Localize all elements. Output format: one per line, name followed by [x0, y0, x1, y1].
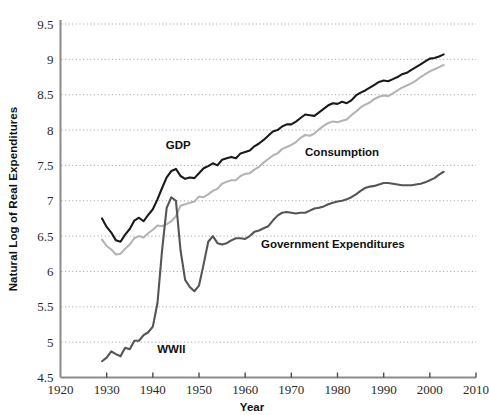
x-tick-label: 1940	[140, 382, 166, 397]
x-tick-label: 1950	[186, 382, 212, 397]
series-line-gdp	[102, 54, 444, 241]
annotation-consumption: Consumption	[305, 146, 379, 158]
annotation-gdp: GDP	[166, 139, 191, 151]
x-tick-labels-group: 1920193019401950196019701980199020002010	[48, 382, 489, 397]
series-line-consumption	[102, 65, 444, 254]
y-tick-label: 6	[47, 264, 54, 279]
chart-container: Natural Log of Real Expenditures 4.555.5…	[0, 0, 489, 415]
y-tick-label: 5.5	[37, 299, 53, 314]
x-tick-label: 2000	[417, 382, 443, 397]
y-axis-title-wrapper: Natural Log of Real Expenditures	[2, 0, 24, 415]
y-tick-label: 5	[47, 335, 54, 350]
y-tick-label: 7	[47, 193, 54, 208]
x-tick-label: 1970	[278, 382, 304, 397]
x-axis-title: Year	[240, 401, 265, 413]
x-tick-label: 1980	[325, 382, 351, 397]
y-tick-label: 9	[47, 52, 54, 67]
y-axis-title: Natural Log of Real Expenditures	[7, 106, 19, 291]
gridlines-group	[62, 24, 477, 342]
y-tick-label: 9.5	[37, 17, 53, 32]
y-tick-labels-group: 4.555.566.577.588.599.5	[37, 17, 54, 386]
y-tick-label: 7.5	[37, 158, 53, 173]
annotation-government: Government Expenditures	[261, 238, 405, 250]
annotation-wwii: WWII	[157, 343, 185, 355]
y-tick-label: 8	[47, 123, 54, 138]
data-series-group	[102, 54, 444, 361]
x-tick-label: 1960	[232, 382, 258, 397]
x-tick-label: 1990	[371, 382, 397, 397]
y-tick-label: 8.5	[37, 87, 53, 102]
line-chart: 4.555.566.577.588.599.5 1920193019401950…	[0, 0, 489, 415]
series-line-government	[102, 172, 444, 361]
series-annotations-group: WWIIGDPConsumptionGovernment Expenditure…	[157, 139, 405, 355]
x-tick-label: 1920	[48, 382, 74, 397]
axes-group	[61, 20, 477, 378]
x-tick-label: 1930	[94, 382, 120, 397]
y-tick-label: 6.5	[37, 229, 53, 244]
x-tick-label: 2010	[463, 382, 489, 397]
